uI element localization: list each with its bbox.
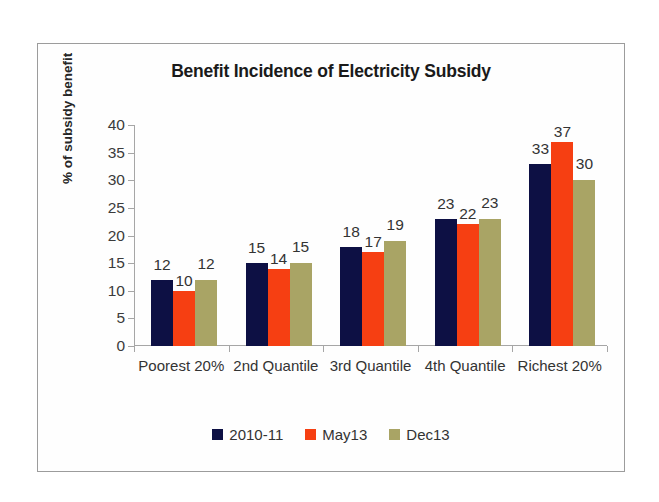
legend-swatch-icon <box>305 429 316 440</box>
bar-group: 151415 <box>246 125 312 346</box>
bar-group: 181719 <box>340 125 406 346</box>
y-axis-tick-label: 25 <box>108 199 125 217</box>
plot-area: 0510152025303540 12101215141518171923222… <box>134 125 624 346</box>
y-axis-tick-label: 40 <box>108 116 125 134</box>
legend-swatch-icon <box>212 429 223 440</box>
chart-frame: Benefit Incidence of Electricity Subsidy… <box>37 43 625 472</box>
bar-value-label: 37 <box>545 123 579 141</box>
x-axis-tick <box>418 346 419 352</box>
bar-value-label: 30 <box>567 155 601 173</box>
bar[interactable] <box>268 269 290 346</box>
bar[interactable] <box>290 263 312 346</box>
x-axis-tick <box>607 346 608 352</box>
bar[interactable] <box>173 291 195 346</box>
y-axis-tick <box>128 291 134 292</box>
legend-label: May13 <box>322 426 367 443</box>
y-axis-tick <box>128 208 134 209</box>
x-axis-category-labels: Poorest 20%2nd Quantile3rd Quantile4th Q… <box>134 356 624 406</box>
bar[interactable] <box>457 224 479 346</box>
y-axis-tick-label: 30 <box>108 171 125 189</box>
bar-group: 121012 <box>151 125 217 346</box>
bar[interactable] <box>362 252 384 346</box>
y-axis-tick <box>128 125 134 126</box>
y-axis-line <box>134 125 135 346</box>
y-axis-tick <box>128 236 134 237</box>
bar[interactable] <box>435 219 457 346</box>
y-axis-tick <box>128 180 134 181</box>
x-axis-category-label: Richest 20% <box>506 356 614 375</box>
y-axis-tick <box>128 263 134 264</box>
x-axis-category-label: 4th Quantile <box>411 356 519 375</box>
bar[interactable] <box>529 164 551 346</box>
bar-group: 232223 <box>435 125 501 346</box>
bar[interactable] <box>340 247 362 346</box>
chart-title: Benefit Incidence of Electricity Subsidy <box>38 61 624 82</box>
bar-value-label: 23 <box>473 194 507 212</box>
x-axis-tick <box>134 346 135 352</box>
y-axis-tick-label: 35 <box>108 144 125 162</box>
x-axis-tick <box>512 346 513 352</box>
legend-swatch-icon <box>389 429 400 440</box>
y-axis-tick <box>128 318 134 319</box>
y-axis-tick-label: 0 <box>116 337 125 355</box>
x-axis-category-label: 2nd Quantile <box>222 356 330 375</box>
legend-label: Dec13 <box>406 426 449 443</box>
y-axis-tick-label: 10 <box>108 282 125 300</box>
legend-item[interactable]: Dec13 <box>389 426 449 443</box>
legend-item[interactable]: May13 <box>305 426 367 443</box>
bar[interactable] <box>195 280 217 346</box>
x-axis-category-label: Poorest 20% <box>127 356 235 375</box>
legend-item[interactable]: 2010-11 <box>212 426 283 443</box>
y-axis-tick-label: 5 <box>116 309 125 327</box>
bar-value-label: 15 <box>284 238 318 256</box>
bar-value-label: 19 <box>378 216 412 234</box>
bar-value-label: 12 <box>189 255 223 273</box>
legend-label: 2010-11 <box>229 426 283 443</box>
y-axis-title: % of subsidy benefit <box>60 53 75 184</box>
bar[interactable] <box>384 241 406 346</box>
x-axis-tick <box>229 346 230 352</box>
bar[interactable] <box>246 263 268 346</box>
bar[interactable] <box>479 219 501 346</box>
bar[interactable] <box>573 180 595 346</box>
y-axis-tick-label: 20 <box>108 227 125 245</box>
x-axis-tick <box>323 346 324 352</box>
y-axis-tick <box>128 153 134 154</box>
x-axis-category-label: 3rd Quantile <box>317 356 425 375</box>
y-axis-tick-label: 15 <box>108 254 125 272</box>
bar-group: 333730 <box>529 125 595 346</box>
chart-legend: 2010-11May13Dec13 <box>38 426 624 443</box>
